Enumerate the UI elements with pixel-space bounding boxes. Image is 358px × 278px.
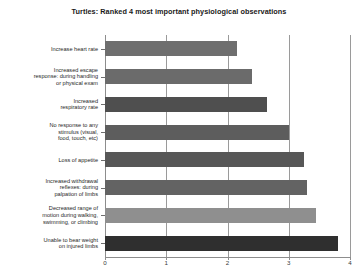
x-tick-label: 4 [342, 259, 358, 266]
bar-chart: Turtles: Ranked 4 most important physiol… [0, 0, 358, 278]
y-axis-label-line: response: during handling [2, 73, 98, 80]
bar-fill [105, 236, 338, 251]
y-tick-mark [101, 77, 105, 78]
y-axis-label-line: Increase heart rate [2, 46, 98, 53]
y-axis-label: Unable to bear weighton injured limbs [2, 237, 98, 250]
y-tick-mark [101, 243, 105, 244]
y-axis-label-line: stimulus (visual, [2, 129, 98, 136]
y-axis-label-line: or physical exam [2, 80, 98, 87]
y-tick-mark [101, 215, 105, 216]
y-axis-label-line: reflexes: during [2, 184, 98, 191]
y-axis-label-line: Increased [2, 98, 98, 105]
y-axis-label-line: swimming, or climbing [2, 219, 98, 226]
chart-title: Turtles: Ranked 4 most important physiol… [0, 7, 358, 16]
bar [105, 125, 289, 140]
bar [105, 208, 316, 223]
y-axis-label-line: palpation of limbs [2, 191, 98, 198]
y-axis-label-line: Increased withdrawal [2, 178, 98, 185]
y-axis-label-line: motion during walking, [2, 212, 98, 219]
x-tick-label: 0 [97, 259, 113, 266]
y-tick-mark [101, 188, 105, 189]
y-axis-label: Decreased range ofmotion during walking,… [2, 205, 98, 225]
y-axis-label-line: No response to any [2, 122, 98, 129]
y-axis-label: Increased escaperesponse: during handlin… [2, 67, 98, 87]
y-axis-label-line: food, touch, etc) [2, 135, 98, 142]
bar-fill [105, 208, 316, 223]
bar [105, 41, 237, 56]
y-tick-mark [101, 49, 105, 50]
x-tick-label: 3 [281, 259, 297, 266]
y-axis-label-line: on injured limbs [2, 243, 98, 250]
y-axis-label-line: Unable to bear weight [2, 237, 98, 244]
gridline [350, 35, 351, 257]
bar [105, 236, 338, 251]
bar-fill [105, 180, 307, 195]
bar [105, 180, 307, 195]
bar-fill [105, 69, 252, 84]
y-axis-label: No response to anystimulus (visual,food,… [2, 122, 98, 142]
bar-fill [105, 125, 289, 140]
y-axis-label-line: Loss of appetite [2, 157, 98, 164]
y-axis-label-line: Increased escape [2, 67, 98, 74]
x-tick-label: 1 [158, 259, 174, 266]
y-axis-label-line: Decreased range of [2, 205, 98, 212]
y-tick-mark [101, 160, 105, 161]
y-axis-label: Increased withdrawalreflexes: duringpalp… [2, 178, 98, 198]
y-tick-mark [101, 104, 105, 105]
bar [105, 97, 267, 112]
y-axis-label: Increase heart rate [2, 46, 98, 53]
y-axis-label: Loss of appetite [2, 157, 98, 164]
bar [105, 69, 252, 84]
bar [105, 152, 304, 167]
y-axis-label-line: respiratory rate [2, 104, 98, 111]
gridline [289, 35, 290, 257]
y-tick-mark [101, 132, 105, 133]
x-tick-label: 2 [220, 259, 236, 266]
bar-fill [105, 41, 237, 56]
bar-fill [105, 152, 304, 167]
bar-fill [105, 97, 267, 112]
y-axis-label: Increasedrespiratory rate [2, 98, 98, 111]
